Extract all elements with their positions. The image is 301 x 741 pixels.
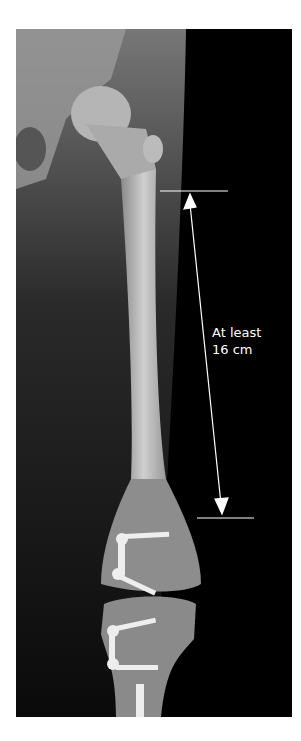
xray-graphic — [16, 29, 292, 717]
annotation-label-line1: At least — [212, 325, 261, 341]
xray-image: At least 16 cm — [16, 29, 292, 717]
annotation-label-line2: 16 cm — [212, 342, 253, 358]
